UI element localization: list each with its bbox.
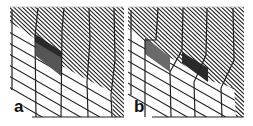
hatch-line bbox=[244, 0, 252, 126]
panel-b-label: b bbox=[134, 98, 144, 115]
hatch-line bbox=[0, 0, 4, 126]
hatch-line bbox=[15, 0, 126, 126]
hatch-line bbox=[248, 0, 252, 126]
panel-a: a bbox=[0, 0, 126, 126]
hatch-line bbox=[101, 0, 126, 126]
column-line bbox=[145, 8, 158, 117]
panel-a-label: a bbox=[14, 98, 23, 115]
panel-b-drawing bbox=[126, 0, 252, 126]
hatch-line bbox=[126, 0, 130, 126]
hatch-line bbox=[218, 0, 252, 126]
hatch-line bbox=[0, 0, 9, 126]
panel-b: b bbox=[126, 0, 252, 126]
hatch-line bbox=[0, 0, 13, 126]
hatch-line bbox=[227, 0, 252, 126]
